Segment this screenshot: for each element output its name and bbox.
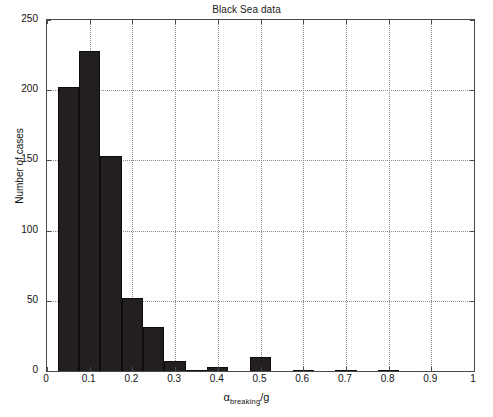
y-tick-mark-right — [470, 301, 474, 302]
histogram-bar — [250, 357, 271, 371]
histogram-bar — [143, 327, 164, 371]
axis-ticks — [47, 20, 474, 371]
x-tick-mark-top — [218, 20, 219, 24]
x-tick-mark — [218, 367, 219, 371]
y-tick-mark-right — [470, 90, 474, 91]
chart-title: Black Sea data — [0, 4, 493, 16]
y-tick-mark-right — [470, 371, 474, 372]
x-tick-mark — [431, 367, 432, 371]
x-tick-label: 0.2 — [111, 373, 151, 385]
y-tick-mark — [47, 90, 51, 91]
vertical-gridline — [261, 20, 262, 371]
x-tick-mark — [132, 367, 133, 371]
x-axis-label: αbreaking/g — [0, 390, 493, 409]
vertical-gridline — [389, 20, 390, 371]
x-tick-mark — [90, 367, 91, 371]
x-tick-mark — [346, 367, 347, 371]
vertical-gridline — [431, 20, 432, 371]
histogram-bar — [164, 361, 185, 371]
horizontal-gridline — [47, 160, 474, 161]
x-tick-mark — [303, 367, 304, 371]
figure: Black Sea data 00.10.20.30.40.50.60.70.8… — [0, 0, 493, 417]
y-tick-mark — [47, 160, 51, 161]
y-tick-label: 250 — [0, 13, 38, 25]
x-tick-mark — [389, 367, 390, 371]
vertical-gridline — [175, 20, 176, 371]
x-tick-mark-top — [474, 20, 475, 24]
x-axis-label-suffix: /g — [260, 391, 269, 403]
y-tick-mark-right — [470, 160, 474, 161]
histogram-bar — [100, 156, 121, 371]
x-tick-mark-top — [431, 20, 432, 24]
x-tick-label: 0.5 — [240, 373, 280, 385]
y-tick-label: 50 — [0, 294, 38, 306]
x-tick-label: 0.4 — [197, 373, 237, 385]
x-tick-mark-top — [132, 20, 133, 24]
x-tick-mark — [47, 367, 48, 371]
histogram-bar — [207, 367, 228, 371]
x-tick-mark-top — [346, 20, 347, 24]
y-tick-mark — [47, 371, 51, 372]
x-tick-mark — [474, 367, 475, 371]
vertical-gridline — [346, 20, 347, 371]
histogram-bar — [79, 51, 100, 371]
x-tick-label: 0.8 — [368, 373, 408, 385]
vertical-gridline — [90, 20, 91, 371]
x-tick-label: 1 — [453, 373, 493, 385]
horizontal-gridline — [47, 301, 474, 302]
y-tick-mark — [47, 301, 51, 302]
x-tick-mark-top — [389, 20, 390, 24]
plot-area — [46, 19, 475, 372]
vertical-gridline — [218, 20, 219, 371]
y-tick-mark — [47, 20, 51, 21]
histogram-bar — [335, 370, 356, 371]
gridlines — [47, 20, 474, 371]
histogram-bar — [186, 370, 207, 371]
histogram-bars — [47, 20, 474, 371]
x-tick-label: 0.7 — [325, 373, 365, 385]
x-tick-mark-top — [303, 20, 304, 24]
histogram-bar — [378, 370, 399, 371]
horizontal-gridline — [47, 231, 474, 232]
horizontal-gridline — [47, 90, 474, 91]
y-tick-label: 0 — [0, 364, 38, 376]
histogram-bar — [122, 298, 143, 371]
x-tick-mark — [175, 367, 176, 371]
x-tick-mark-top — [90, 20, 91, 24]
y-tick-mark — [47, 231, 51, 232]
x-tick-label: 0.3 — [154, 373, 194, 385]
histogram-bar — [293, 370, 314, 371]
x-tick-mark — [261, 367, 262, 371]
x-tick-mark-top — [47, 20, 48, 24]
x-tick-label: 0.9 — [410, 373, 450, 385]
y-tick-mark-right — [470, 20, 474, 21]
x-tick-label: 0.6 — [282, 373, 322, 385]
y-tick-mark-right — [470, 231, 474, 232]
x-tick-mark-top — [261, 20, 262, 24]
x-axis-label-subscript: breaking — [230, 397, 260, 406]
x-tick-mark-top — [175, 20, 176, 24]
vertical-gridline — [303, 20, 304, 371]
x-tick-label: 0.1 — [69, 373, 109, 385]
histogram-bar — [58, 87, 79, 371]
y-axis-label: Number of cases — [14, 86, 26, 246]
vertical-gridline — [132, 20, 133, 371]
